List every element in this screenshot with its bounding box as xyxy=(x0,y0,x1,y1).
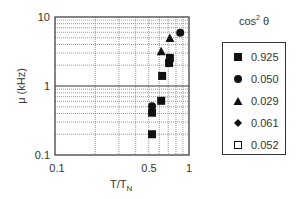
legend-title: cos2 θ xyxy=(222,14,286,27)
y-tick-0-1: 0.1 xyxy=(35,149,50,161)
square-open-icon xyxy=(231,140,245,150)
legend-item-0-061: 0.061 xyxy=(223,115,285,131)
circle-filled-icon xyxy=(231,74,245,84)
data-point-square-filled xyxy=(148,130,156,138)
y-tick-10: 10 xyxy=(38,11,50,23)
square-filled-icon xyxy=(231,52,245,62)
x-axis-label: T/TN xyxy=(110,178,133,193)
legend-item-0-052: 0.052 xyxy=(223,137,285,153)
y-tick-1: 1 xyxy=(44,80,50,92)
legend-item-0-925: 0.925 xyxy=(223,49,285,65)
diamond-filled-icon xyxy=(231,118,245,128)
x-tick-0-1: 0.1 xyxy=(49,162,64,174)
y-axis-label: μ (kHz) xyxy=(15,68,27,104)
legend-item-0-029: 0.029 xyxy=(223,93,285,109)
legend: 0.925 0.050 0.029 0.061 0.052 xyxy=(222,42,286,155)
data-point-square-filled xyxy=(157,97,165,105)
legend-item-0-050: 0.050 xyxy=(223,71,285,87)
triangle-filled-icon xyxy=(231,96,245,106)
data-point-circle-filled xyxy=(176,29,184,37)
data-point-square-filled xyxy=(158,72,166,80)
data-point-triangle-filled xyxy=(157,47,166,56)
x-tick-0-5: 0.5 xyxy=(141,162,156,174)
data-point-circle-filled xyxy=(148,102,156,110)
x-tick-1: 1 xyxy=(186,162,192,174)
